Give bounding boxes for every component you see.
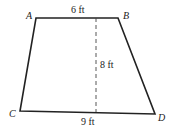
vertex-label-a: A [25, 10, 33, 21]
trapezoid-outline [20, 18, 155, 114]
vertex-label-c: C [9, 108, 16, 119]
vertex-label-b: B [123, 10, 129, 21]
bottom-length-label: 9 ft [81, 116, 95, 127]
vertex-label-d: D [157, 112, 166, 123]
top-length-label: 6 ft [71, 4, 85, 15]
height-label: 8 ft [100, 59, 114, 70]
trapezoid-diagram: A B C D 6 ft 8 ft 9 ft [0, 0, 175, 129]
